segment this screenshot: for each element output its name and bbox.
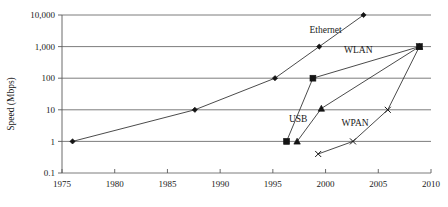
series-markers-group xyxy=(70,12,423,157)
series-label-usb: USB xyxy=(289,114,307,124)
series-label-ethernet: Ethernet xyxy=(309,25,342,35)
marker-ethernet-0 xyxy=(70,139,75,144)
marker-wlan-1 xyxy=(318,105,324,111)
x-tick-label-1: 1980 xyxy=(106,179,125,189)
marker-ethernet-2 xyxy=(272,76,277,81)
series-line-wpan xyxy=(318,47,419,154)
y-tick-label-1: 1,000 xyxy=(35,42,56,52)
y-tick-label-4: 1 xyxy=(51,137,56,147)
x-tick-label-2: 1985 xyxy=(158,179,177,189)
x-tick-label-6: 2005 xyxy=(369,179,388,189)
x-tick-label-4: 1995 xyxy=(264,179,283,189)
series-label-wlan: WLAN xyxy=(344,45,373,55)
chart-canvas: 10,0001,0001001010.1 1975198019851990199… xyxy=(0,0,448,207)
speed-vs-year-chart: 10,0001,0001001010.1 1975198019851990199… xyxy=(0,0,448,207)
y-tick-label-5: 0.1 xyxy=(44,168,55,178)
y-axis-label: Speed (Mbps) xyxy=(6,77,17,131)
gridlines-group xyxy=(62,15,431,173)
x-tick-label-5: 2000 xyxy=(317,179,336,189)
x-tick-label-0: 1975 xyxy=(53,179,72,189)
x-tick-label-3: 1990 xyxy=(211,179,230,189)
marker-ethernet-1 xyxy=(192,107,197,112)
series-lines-group xyxy=(73,15,420,154)
series-annotations-group: EthernetWLANUSBWPAN xyxy=(289,25,373,127)
marker-usb-1 xyxy=(310,75,316,81)
marker-wpan-0 xyxy=(315,151,321,157)
y-tick-label-0: 10,000 xyxy=(30,10,55,20)
series-label-wpan: WPAN xyxy=(342,118,369,128)
x-tick-label-7: 2010 xyxy=(422,179,441,189)
x-tick-group: 19751980198519901995200020052010 xyxy=(53,169,441,189)
y-tick-label-3: 10 xyxy=(46,105,56,115)
y-tick-group: 10,0001,0001001010.1 xyxy=(30,10,62,178)
y-tick-label-2: 100 xyxy=(42,73,56,83)
marker-usb-0 xyxy=(284,139,290,145)
